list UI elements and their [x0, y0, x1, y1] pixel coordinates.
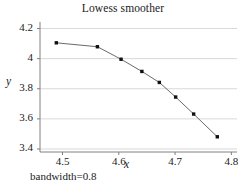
y-tick-label: 3.4 — [3, 141, 33, 153]
bandwidth-caption: bandwidth=0.8 — [30, 170, 96, 182]
y-tick-label: 3.6 — [3, 111, 33, 123]
data-point — [158, 81, 161, 84]
x-tick-label: 4.5 — [50, 155, 76, 167]
data-point — [192, 112, 195, 115]
axis-lines — [40, 22, 237, 152]
lowess-curve — [56, 43, 217, 137]
data-point — [119, 58, 122, 61]
x-tick-label: 4.8 — [218, 155, 244, 167]
chart-figure: Lowess smoother 3.43.63.844.2 4.54.64.74… — [0, 0, 246, 190]
x-tick-label: 4.7 — [162, 155, 188, 167]
data-point — [140, 70, 143, 73]
x-axis-label: x — [124, 158, 129, 170]
data-point — [96, 45, 99, 48]
data-point — [55, 41, 58, 44]
data-point — [174, 95, 177, 98]
y-axis-label: y — [6, 75, 11, 87]
y-tick-label: 4 — [3, 51, 33, 63]
y-tick-label: 4.2 — [3, 21, 33, 33]
tick-marks — [37, 29, 231, 155]
data-point — [216, 135, 219, 138]
gridlines — [40, 29, 237, 149]
data-point-markers — [55, 41, 219, 138]
